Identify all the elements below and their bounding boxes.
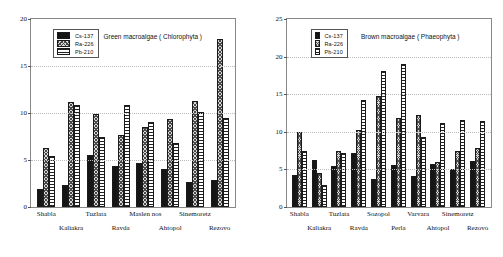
y-axis-tick-mark <box>284 169 287 170</box>
bar-pb210 <box>148 122 154 207</box>
gridline <box>287 132 491 133</box>
x-axis-label: Sinemoretz <box>442 210 474 218</box>
legend-item-cs137: Cs-137 <box>57 32 94 39</box>
bar-pb210 <box>223 118 229 207</box>
y-axis-tick-label: 15 <box>276 90 283 98</box>
x-axis-label: Varvara <box>407 210 429 218</box>
x-axis-label: Ravda <box>350 224 368 232</box>
bar-group <box>468 19 488 207</box>
y-axis-tick-label: 5 <box>279 165 283 173</box>
y-axis-tick-mark <box>284 57 287 58</box>
gridline <box>31 113 235 114</box>
x-axis-label: Tuzlata <box>329 210 350 218</box>
legend-label-ra226: Ra-226 <box>75 41 94 47</box>
gridline <box>287 94 491 95</box>
bar-pb210 <box>74 105 80 207</box>
x-axis-label: Rezovo <box>467 224 488 232</box>
legend-swatch-pb210 <box>315 48 320 55</box>
bar-pb210 <box>49 156 55 207</box>
y-axis-tick-mark <box>284 132 287 133</box>
gridline <box>31 66 235 67</box>
legend-swatch-cs137 <box>315 32 320 39</box>
chart-title-green: Green macroalgae ( Chlorophyta ) <box>103 33 202 40</box>
x-axis-label: Rezovo <box>209 224 230 232</box>
legend-label-cs137: Cs-137 <box>75 33 93 39</box>
y-axis-tick-label: 10 <box>276 128 283 136</box>
x-axis-label: Tuzlata <box>86 210 107 218</box>
bar-group <box>428 19 448 207</box>
legend-label-ra226: Ra-226 <box>325 41 344 47</box>
bar-pb210 <box>341 153 346 207</box>
bar-group <box>290 19 310 207</box>
bar-group <box>408 19 428 207</box>
panel-green-macroalgae: Green macroalgae ( Chlorophyta ) Cs-137 … <box>0 0 252 257</box>
y-axis-tick-label: 20 <box>276 53 283 61</box>
bar-pb210 <box>401 64 406 207</box>
bar-pb210 <box>99 137 105 208</box>
y-axis-tick-label: 5 <box>24 156 28 164</box>
legend-label-pb210: Pb-210 <box>325 49 343 55</box>
bar-group <box>388 19 408 207</box>
y-axis-tick-mark <box>284 19 287 20</box>
bar-pb210 <box>460 120 465 207</box>
bar-pb210 <box>173 143 179 207</box>
y-axis-tick-mark <box>28 66 31 67</box>
x-axis-label: Maslen nos <box>129 210 161 218</box>
x-axis-labels-brown: ShablaKaliakraTuzlataRavdaSozopolPerlaVa… <box>287 207 491 253</box>
legend-green: Cs-137 Ra-226 Pb-210 <box>53 29 99 58</box>
y-axis-tick-label: 0 <box>279 203 283 211</box>
y-axis-tick-mark <box>284 207 287 208</box>
y-axis-tick-mark <box>284 94 287 95</box>
x-axis-label: Ahtopol <box>427 224 450 232</box>
x-axis-label: Sinemoretz <box>179 210 211 218</box>
bar-group <box>448 19 468 207</box>
y-axis-tick-mark <box>28 113 31 114</box>
x-axis-label: Shabla <box>290 210 309 218</box>
bar-pb210 <box>381 71 386 207</box>
y-axis-tick-mark <box>28 160 31 161</box>
plot-area-green: Green macroalgae ( Chlorophyta ) Cs-137 … <box>30 18 236 208</box>
x-axis-label: Shabla <box>37 210 56 218</box>
plot-area-brown: Brown macroalgae ( Phaeophyta ) Cs-137 R… <box>286 18 492 208</box>
x-axis-label: Perla <box>391 224 405 232</box>
x-axis-label: Kaliakra <box>59 224 83 232</box>
gridline <box>287 169 491 170</box>
y-axis-tick-mark <box>28 19 31 20</box>
y-axis-tick-label: 10 <box>20 109 27 117</box>
bar-pb210 <box>124 105 130 207</box>
legend-brown: Cs-137 Ra-226 Pb-210 <box>311 29 349 58</box>
legend-item-ra226: Ra-226 <box>315 40 344 47</box>
panel-brown-macroalgae: Brown macroalgae ( Phaeophyta ) Cs-137 R… <box>252 0 503 257</box>
bar-pb210 <box>421 137 426 207</box>
bar-pb210 <box>361 100 366 207</box>
bar-pb210 <box>322 185 327 207</box>
legend-item-pb210: Pb-210 <box>315 48 344 55</box>
bar-group <box>369 19 389 207</box>
y-axis-tick-label: 25 <box>276 15 283 23</box>
x-axis-labels-green: ShablaKaliakraTuzlataRavdaMaslen nosAhto… <box>31 207 235 253</box>
y-axis-tick-mark <box>28 207 31 208</box>
legend-swatch-ra226 <box>315 40 320 47</box>
bar-pb210 <box>440 123 445 207</box>
x-axis-label: Ravda <box>112 224 130 232</box>
chart-title-brown: Brown macroalgae ( Phaeophyta ) <box>361 33 460 40</box>
legend-swatch-ra226 <box>57 40 70 47</box>
legend-swatch-pb210 <box>57 48 70 55</box>
legend-label-pb210: Pb-210 <box>75 49 93 55</box>
x-axis-label: Ahtopol <box>159 224 182 232</box>
bar-pb210 <box>302 151 307 207</box>
y-axis-tick-label: 15 <box>20 62 27 70</box>
bar-group <box>349 19 369 207</box>
macroalgae-radionuclide-figure: Green macroalgae ( Chlorophyta ) Cs-137 … <box>0 0 503 257</box>
legend-label-cs137: Cs-137 <box>325 33 343 39</box>
legend-item-cs137: Cs-137 <box>315 32 344 39</box>
legend-item-ra226: Ra-226 <box>57 40 94 47</box>
x-axis-label: Kaliakra <box>307 224 331 232</box>
legend-swatch-cs137 <box>57 32 70 39</box>
gridline <box>31 160 235 161</box>
legend-item-pb210: Pb-210 <box>57 48 94 55</box>
x-axis-label: Sozopol <box>367 210 390 218</box>
y-axis-tick-label: 20 <box>20 15 27 23</box>
y-axis-tick-label: 0 <box>24 203 28 211</box>
bar-pb210 <box>480 121 485 207</box>
